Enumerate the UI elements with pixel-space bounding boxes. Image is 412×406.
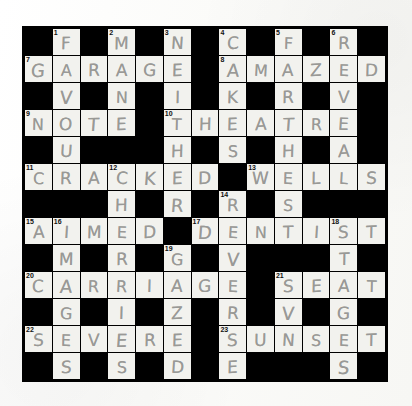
grid-cell[interactable]: I [136,272,163,298]
grid-cell[interactable]: 15A [25,218,52,244]
grid-cell[interactable]: D [164,353,191,379]
grid-cell[interactable]: 9N [25,110,52,136]
grid-cell[interactable]: A [275,56,302,82]
grid-cell[interactable]: K [219,83,246,109]
grid-cell[interactable]: G [192,272,219,298]
grid-cell[interactable]: K [136,164,163,190]
grid-cell[interactable]: S [358,164,385,190]
grid-cell[interactable]: E [219,218,246,244]
grid-cell[interactable]: 3N [164,29,191,55]
grid-cell[interactable]: R [136,326,163,352]
grid-cell[interactable]: I [108,299,135,325]
grid-cell[interactable]: R [303,110,330,136]
grid-cell[interactable]: U [247,326,274,352]
grid-cell[interactable]: D [136,218,163,244]
grid-cell[interactable]: V [53,83,80,109]
grid-cell[interactable]: G [136,56,163,82]
grid-cell[interactable]: U [53,137,80,163]
grid-cell[interactable]: 17D [192,218,219,244]
grid-cell[interactable]: 12C [108,164,135,190]
grid-cell[interactable]: E [164,164,191,190]
grid-cell[interactable]: S [108,353,135,379]
grid-cell[interactable]: T [358,218,385,244]
grid-cell[interactable]: 2M [108,29,135,55]
grid-cell[interactable]: 14R [219,191,246,217]
grid-cell[interactable]: Z [303,56,330,82]
crossword-grid[interactable]: 1F2M3N4C5F6R7GARAGE8AMAZEDVNIKRV9NOTE10T… [22,26,388,382]
grid-cell[interactable]: V [330,83,357,109]
grid-cell[interactable]: E [330,56,357,82]
grid-cell[interactable]: S [275,191,302,217]
grid-cell[interactable]: M [81,218,108,244]
grid-cell[interactable]: R [108,272,135,298]
grid-cell[interactable]: 1F [53,29,80,55]
grid-cell[interactable]: N [108,83,135,109]
grid-cell[interactable]: 13W [247,164,274,190]
grid-cell[interactable]: 8A [219,56,246,82]
grid-cell[interactable]: 4C [219,29,246,55]
grid-cell[interactable]: A [108,56,135,82]
grid-cell[interactable]: 10T [164,110,191,136]
grid-cell[interactable]: M [53,245,80,271]
grid-cell[interactable]: D [192,164,219,190]
grid-cell[interactable]: 6R [330,29,357,55]
grid-cell[interactable]: H [164,137,191,163]
grid-cell[interactable]: Z [164,299,191,325]
grid-cell[interactable]: H [192,110,219,136]
grid-cell[interactable]: A [164,272,191,298]
grid-cell[interactable]: R [81,56,108,82]
grid-cell[interactable]: 21S [275,272,302,298]
grid-cell[interactable]: A [330,272,357,298]
grid-cell[interactable]: E [330,110,357,136]
grid-cell[interactable]: V [81,326,108,352]
grid-cell[interactable]: N [275,326,302,352]
grid-cell[interactable]: 19G [164,245,191,271]
grid-cell[interactable]: T [275,218,302,244]
grid-cell[interactable]: 16I [53,218,80,244]
grid-cell[interactable]: E [108,218,135,244]
grid-cell[interactable]: 22S [25,326,52,352]
grid-cell[interactable]: L [303,164,330,190]
grid-cell[interactable]: V [275,299,302,325]
grid-cell[interactable]: T [81,110,108,136]
grid-cell[interactable]: S [53,353,80,379]
grid-cell[interactable]: S [219,137,246,163]
grid-cell[interactable]: E [164,56,191,82]
grid-cell[interactable]: T [358,326,385,352]
grid-cell[interactable]: L [330,164,357,190]
grid-cell[interactable]: R [53,164,80,190]
grid-cell[interactable]: R [219,299,246,325]
grid-cell[interactable]: A [247,110,274,136]
grid-cell[interactable]: G [53,299,80,325]
grid-cell[interactable]: R [275,83,302,109]
grid-cell[interactable]: A [53,56,80,82]
grid-cell[interactable]: S [303,326,330,352]
grid-cell[interactable]: E [330,326,357,352]
grid-cell[interactable]: E [219,110,246,136]
grid-cell[interactable]: 7G [25,56,52,82]
grid-cell[interactable]: D [358,56,385,82]
grid-cell[interactable]: V [219,245,246,271]
grid-cell[interactable]: I [164,83,191,109]
grid-cell[interactable]: N [247,218,274,244]
grid-cell[interactable]: E [108,110,135,136]
grid-cell[interactable]: I [303,218,330,244]
grid-cell[interactable]: 5F [275,29,302,55]
grid-cell[interactable]: M [247,56,274,82]
grid-cell[interactable]: 20C [25,272,52,298]
grid-cell[interactable]: A [330,137,357,163]
grid-cell[interactable]: T [330,245,357,271]
grid-cell[interactable]: 23S [219,326,246,352]
grid-cell[interactable]: H [108,191,135,217]
grid-cell[interactable]: E [108,326,135,352]
grid-cell[interactable]: E [164,326,191,352]
grid-cell[interactable]: O [53,110,80,136]
grid-cell[interactable]: A [81,164,108,190]
grid-cell[interactable]: T [358,272,385,298]
grid-cell[interactable]: E [303,272,330,298]
grid-cell[interactable]: E [219,353,246,379]
grid-cell[interactable]: E [53,326,80,352]
grid-cell[interactable]: A [53,272,80,298]
grid-cell[interactable]: R [108,245,135,271]
grid-cell[interactable]: 18S [330,218,357,244]
